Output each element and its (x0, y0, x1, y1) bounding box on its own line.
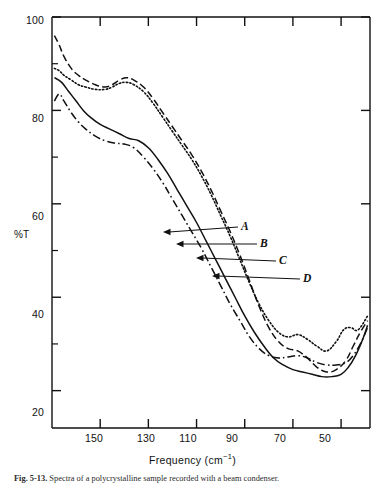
x-tick-label-150: 150 (76, 432, 112, 444)
plot-frame (52, 17, 370, 428)
curve-a (54, 94, 367, 365)
figure-caption: Fig. 5-13. Spectra of a polycrystalline … (14, 473, 374, 485)
curve-label-c: C (279, 254, 287, 266)
x-axis-ticks (100, 419, 341, 428)
x-tick-label-70: 70 (262, 432, 298, 444)
right-axis-ticks (361, 17, 370, 391)
x-axis-title-exponent: −1 (223, 452, 232, 461)
leader-b (176, 241, 257, 247)
y-tick-label-80: 80 (14, 112, 44, 124)
curve-label-d: D (303, 272, 311, 284)
x-axis-title: Frequency (cm−1) (0, 452, 385, 466)
curve-c (54, 36, 367, 372)
figure-number: Fig. 5-13. (14, 474, 47, 483)
y-tick-label-20: 20 (14, 406, 44, 418)
x-axis-title-close: ) (232, 454, 236, 466)
y-axis-ticks (52, 17, 61, 391)
data-curves (54, 36, 367, 377)
top-axis-ticks (100, 17, 341, 26)
chart-plot (0, 0, 385, 485)
y-tick-label-100: 100 (14, 14, 44, 26)
x-tick-label-110: 110 (170, 432, 206, 444)
curve-b (54, 78, 367, 377)
x-tick-label-130: 130 (128, 432, 164, 444)
x-tick-label-90: 90 (214, 432, 250, 444)
curve-label-b: B (260, 237, 268, 249)
x-axis-title-main: Frequency (cm (149, 454, 223, 466)
y-tick-label-40: 40 (14, 308, 44, 320)
figure-caption-text: Spectra of a polycrystalline sample reco… (49, 474, 279, 483)
figure-container: 100 80 60 40 20 %T 150 130 110 90 70 50 … (0, 0, 385, 485)
y-axis-title: %T (14, 229, 29, 240)
y-tick-label-60: 60 (14, 210, 44, 222)
curve-label-a: A (241, 220, 249, 232)
x-tick-label-50: 50 (307, 432, 343, 444)
curve-d (54, 68, 367, 351)
